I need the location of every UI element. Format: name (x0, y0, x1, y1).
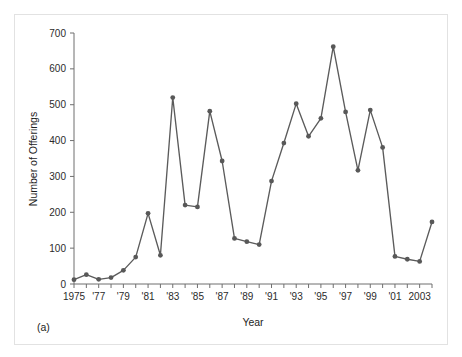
x-tick-label: '79 (117, 291, 130, 302)
x-axis-title: Year (242, 316, 264, 328)
data-point (319, 116, 324, 121)
x-tick-label: '97 (339, 291, 352, 302)
x-tick-label: '85 (191, 291, 204, 302)
data-point (294, 101, 299, 106)
x-tick-label: '77 (92, 291, 105, 302)
y-tick-label: 200 (49, 207, 66, 218)
series-line-path (74, 47, 432, 280)
data-point (244, 239, 249, 244)
data-point (417, 259, 422, 264)
data-point (232, 236, 237, 241)
data-point (183, 203, 188, 208)
data-point (109, 275, 114, 280)
figure-frame: 0100200300400500600700 1975'77'79'81'83'… (14, 14, 448, 345)
y-tick-label: 600 (49, 63, 66, 74)
y-tick-label: 400 (49, 135, 66, 146)
data-point (368, 108, 373, 113)
x-tick-label: '91 (265, 291, 278, 302)
data-point (207, 109, 212, 114)
y-axis-ticks: 0100200300400500600700 (49, 28, 74, 290)
y-tick-label: 0 (60, 279, 66, 290)
x-tick-label: '81 (142, 291, 155, 302)
offerings-line-chart: 0100200300400500600700 1975'77'79'81'83'… (15, 15, 447, 344)
data-point (281, 141, 286, 146)
data-point (405, 257, 410, 262)
panel-label: (a) (37, 321, 50, 333)
x-tick-label: 1975 (63, 291, 86, 302)
x-axis-ticks: 1975'77'79'81'83'85'87'89'91'93'95'97'99… (63, 284, 432, 302)
data-point (96, 277, 101, 282)
y-axis-title: Number of Offerings (27, 112, 39, 206)
y-tick-label: 700 (49, 28, 66, 39)
data-point (331, 44, 336, 49)
y-tick-label: 300 (49, 171, 66, 182)
x-tick-label: '01 (388, 291, 401, 302)
data-point (121, 268, 126, 273)
series-markers (72, 44, 435, 282)
data-point (393, 254, 398, 259)
x-tick-label: '83 (166, 291, 179, 302)
data-point (306, 134, 311, 139)
data-series-offerings (72, 44, 435, 282)
x-tick-label: '95 (314, 291, 327, 302)
y-tick-label: 100 (49, 243, 66, 254)
chart-axes (74, 33, 432, 284)
data-point (84, 272, 89, 277)
data-point (430, 220, 435, 225)
data-point (343, 109, 348, 114)
data-point (170, 95, 175, 100)
y-tick-label: 500 (49, 99, 66, 110)
data-point (269, 179, 274, 184)
data-point (356, 168, 361, 173)
x-tick-label: '87 (216, 291, 229, 302)
x-tick-label: '99 (364, 291, 377, 302)
data-point (158, 253, 163, 258)
data-point (380, 145, 385, 150)
data-point (72, 277, 77, 282)
x-tick-label: 2003 (409, 291, 432, 302)
data-point (220, 159, 225, 164)
x-tick-label: '93 (290, 291, 303, 302)
data-point (195, 205, 200, 210)
data-point (133, 255, 138, 260)
data-point (146, 211, 151, 216)
x-tick-label: '89 (240, 291, 253, 302)
data-point (257, 242, 262, 247)
